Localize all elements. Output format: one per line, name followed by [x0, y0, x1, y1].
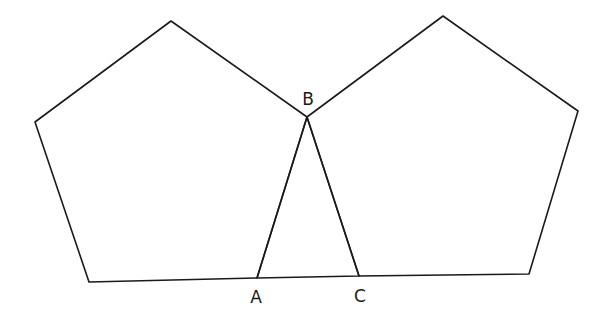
left-pentagon — [35, 21, 307, 282]
point-label-a: A — [250, 287, 262, 307]
point-label-c: C — [354, 286, 366, 306]
right-pentagon — [307, 16, 578, 276]
triangle-abc — [257, 117, 359, 278]
geometry-figure: A B C — [0, 0, 606, 320]
diagram-canvas: A B C — [0, 0, 606, 320]
point-label-b: B — [302, 89, 314, 109]
